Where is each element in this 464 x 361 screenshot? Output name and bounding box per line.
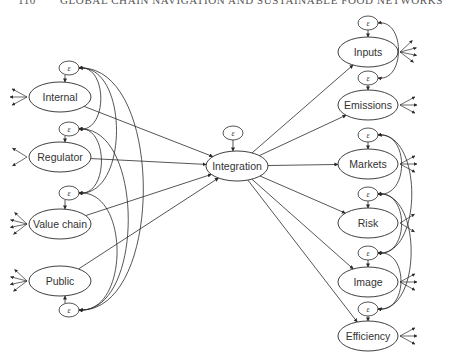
node-integration: Integrationε bbox=[206, 126, 268, 181]
efficiency-label: Efficiency bbox=[346, 330, 391, 342]
node-internal: Internalε bbox=[10, 61, 91, 112]
path-public-to-integration bbox=[79, 178, 219, 269]
efficiency-indicator-arrow bbox=[400, 328, 415, 336]
path-integration-to-risk bbox=[260, 176, 345, 213]
emissions-indicator-arrow bbox=[400, 105, 415, 113]
sem-path-diagram: IntegrationεInternalεRegulatorεValue cha… bbox=[0, 0, 464, 361]
node-regulator: Regulatorε bbox=[13, 122, 91, 172]
inputs-label: Inputs bbox=[354, 46, 383, 58]
path-integration-to-markets bbox=[268, 164, 338, 165]
node-risk: Riskε bbox=[338, 187, 414, 238]
image-label: Image bbox=[353, 276, 382, 288]
node-value-chain: Value chainε bbox=[10, 186, 91, 239]
covariance-value-chain-public bbox=[79, 193, 117, 310]
path-internal-to-integration bbox=[84, 106, 213, 156]
public-label: Public bbox=[46, 275, 75, 287]
integration-label: Integration bbox=[212, 160, 262, 172]
risk-label: Risk bbox=[358, 217, 379, 229]
risk-indicator-arrow bbox=[400, 223, 414, 232]
node-inputs: Inputsε bbox=[338, 16, 417, 67]
image-indicator-arrow bbox=[400, 282, 415, 290]
node-image: Imageε bbox=[338, 246, 417, 297]
node-markets: Marketsε bbox=[338, 128, 417, 179]
regulator-indicator-arrow bbox=[13, 148, 27, 157]
nodes-layer: IntegrationεInternalεRegulatorεValue cha… bbox=[10, 16, 417, 351]
covariance-internal-public bbox=[79, 68, 143, 310]
emissions-indicator-arrow bbox=[400, 97, 415, 105]
node-public: Publicε bbox=[10, 266, 91, 317]
markets-label: Markets bbox=[349, 158, 386, 170]
internal-indicator-arrow bbox=[12, 97, 27, 105]
node-efficiency: Efficiencyε bbox=[338, 302, 417, 351]
internal-indicator-arrow bbox=[12, 89, 27, 97]
regulator-label: Regulator bbox=[37, 151, 83, 163]
value-chain-label: Value chain bbox=[33, 218, 87, 230]
internal-label: Internal bbox=[42, 91, 77, 103]
path-integration-to-efficiency bbox=[248, 180, 357, 322]
path-integration-to-inputs bbox=[252, 65, 353, 153]
node-emissions: Emissionsε bbox=[338, 71, 417, 120]
markets-indicator-arrow bbox=[400, 164, 415, 172]
covariance-internal-value-chain bbox=[79, 68, 117, 193]
emissions-label: Emissions bbox=[344, 99, 392, 111]
efficiency-indicator-arrow bbox=[400, 336, 415, 344]
path-regulator-to-integration bbox=[91, 159, 206, 165]
regulator-indicator-arrow bbox=[13, 157, 27, 166]
